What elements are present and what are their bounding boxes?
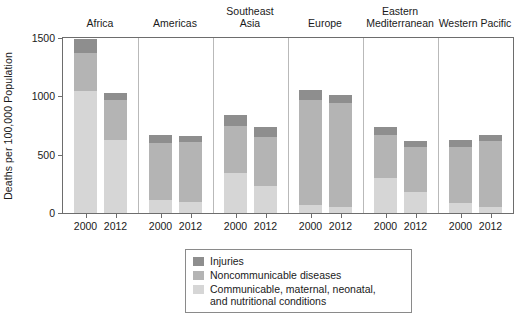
bar-africa-2012 xyxy=(104,93,127,213)
bar-segment-cmn xyxy=(479,207,502,213)
panel-separator xyxy=(288,38,289,213)
x-tick-label-western-pacific-2000: 2000 xyxy=(449,220,472,232)
bar-segment-ncd xyxy=(74,53,97,91)
x-tick-label-europe-2000: 2000 xyxy=(299,220,322,232)
bar-segment-cmn xyxy=(149,200,172,213)
bar-americas-2012 xyxy=(179,136,202,213)
legend-item-communicable: Communicable, maternal, neonatal,and nut… xyxy=(193,283,404,307)
x-tick-label-americas-2000: 2000 xyxy=(149,220,172,232)
x-tick xyxy=(311,214,312,218)
x-tick xyxy=(86,214,87,218)
legend-label-communicable: Communicable, maternal, neonatal,and nut… xyxy=(210,283,376,307)
bar-segment-cmn xyxy=(104,140,127,213)
panel-separator xyxy=(138,38,139,213)
y-tick-500 xyxy=(58,155,63,156)
legend-swatch-communicable xyxy=(193,285,204,294)
bar-eastern-mediterranean-2012 xyxy=(404,141,427,213)
bar-segment-ncd xyxy=(404,147,427,192)
bar-segment-ncd xyxy=(329,103,352,207)
group-label-africa: Africa xyxy=(87,18,114,30)
y-axis-title: Deaths per 100,000 Population xyxy=(2,38,16,214)
plot-inner: 050010001500 xyxy=(63,38,513,213)
x-tick-label-western-pacific-2012: 2012 xyxy=(479,220,502,232)
bar-southeast-asia-2012 xyxy=(254,127,277,213)
panel-separator xyxy=(363,38,364,213)
x-tick xyxy=(491,214,492,218)
bar-segment-ncd xyxy=(479,141,502,206)
legend-label-communicable-line1: Communicable, maternal, neonatal, xyxy=(210,283,376,295)
legend-item-injuries: Injuries xyxy=(193,255,404,267)
bar-segment-inj xyxy=(254,127,277,137)
x-tick xyxy=(161,214,162,218)
legend-label-communicable-line2: and nutritional conditions xyxy=(210,295,326,307)
y-tick-1000 xyxy=(58,96,63,97)
bar-segment-inj xyxy=(299,90,322,101)
x-tick-label-eastern-mediterranean-2000: 2000 xyxy=(374,220,397,232)
bar-segment-ncd xyxy=(179,142,202,202)
bar-segment-inj xyxy=(374,127,397,135)
x-axis: 2000201220002012200020122000201220002012… xyxy=(62,214,514,238)
bar-southeast-asia-2000 xyxy=(224,115,247,213)
bar-segment-inj xyxy=(104,93,127,100)
x-tick xyxy=(461,214,462,218)
x-tick-label-southeast-asia-2000: 2000 xyxy=(224,220,247,232)
bar-segment-cmn xyxy=(404,192,427,213)
x-tick xyxy=(266,214,267,218)
group-label-eastern-mediterranean: EasternMediterranean xyxy=(366,6,434,29)
y-tick-label-0: 0 xyxy=(49,207,55,219)
x-tick xyxy=(236,214,237,218)
bar-segment-cmn xyxy=(254,186,277,213)
bar-eastern-mediterranean-2000 xyxy=(374,127,397,213)
legend-item-noncommunicable: Noncommunicable diseases xyxy=(193,269,404,281)
bar-segment-inj xyxy=(449,140,472,147)
bar-americas-2000 xyxy=(149,135,172,213)
bar-segment-cmn xyxy=(224,173,247,213)
bar-segment-ncd xyxy=(149,143,172,200)
chart-figure: Deaths per 100,000 Population AfricaAmer… xyxy=(0,0,522,323)
plot-area: 050010001500 xyxy=(62,37,514,214)
bar-segment-inj xyxy=(149,135,172,143)
chart-legend: Injuries Noncommunicable diseases Commun… xyxy=(185,249,412,313)
group-label-row: AfricaAmericasSoutheastAsiaEuropeEastern… xyxy=(62,6,514,36)
bar-segment-cmn xyxy=(449,203,472,213)
bar-segment-inj xyxy=(74,39,97,53)
bar-segment-ncd xyxy=(374,135,397,178)
x-tick xyxy=(386,214,387,218)
bar-segment-cmn xyxy=(179,202,202,213)
bar-segment-inj xyxy=(224,115,247,126)
x-tick xyxy=(116,214,117,218)
group-label-western-pacific: Western Pacific xyxy=(439,18,512,30)
bar-segment-ncd xyxy=(104,100,127,140)
panel-separator xyxy=(438,38,439,213)
x-tick xyxy=(341,214,342,218)
bar-europe-2000 xyxy=(299,90,322,213)
bar-europe-2012 xyxy=(329,95,352,213)
group-label-americas: Americas xyxy=(153,18,197,30)
x-tick-label-africa-2000: 2000 xyxy=(74,220,97,232)
bar-segment-ncd xyxy=(299,100,322,205)
bar-segment-ncd xyxy=(449,147,472,203)
panel-separator xyxy=(213,38,214,213)
bar-segment-cmn xyxy=(299,205,322,213)
legend-swatch-noncommunicable xyxy=(193,271,204,280)
group-label-southeast-asia: SoutheastAsia xyxy=(226,6,273,29)
bar-segment-cmn xyxy=(329,207,352,213)
bar-segment-ncd xyxy=(224,126,247,173)
bar-africa-2000 xyxy=(74,39,97,213)
x-tick-label-eastern-mediterranean-2012: 2012 xyxy=(404,220,427,232)
bar-segment-cmn xyxy=(74,91,97,213)
y-tick-label-500: 500 xyxy=(37,149,55,161)
x-tick-label-africa-2012: 2012 xyxy=(104,220,127,232)
y-tick-label-1000: 1000 xyxy=(32,90,55,102)
bar-segment-cmn xyxy=(374,178,397,213)
x-tick-label-southeast-asia-2012: 2012 xyxy=(254,220,277,232)
group-label-europe: Europe xyxy=(308,18,342,30)
x-tick-label-europe-2012: 2012 xyxy=(329,220,352,232)
x-tick-label-americas-2012: 2012 xyxy=(179,220,202,232)
legend-swatch-injuries xyxy=(193,257,204,266)
bar-western-pacific-2012 xyxy=(479,135,502,213)
bar-western-pacific-2000 xyxy=(449,140,472,213)
x-tick xyxy=(191,214,192,218)
x-tick xyxy=(416,214,417,218)
bar-segment-ncd xyxy=(254,137,277,187)
